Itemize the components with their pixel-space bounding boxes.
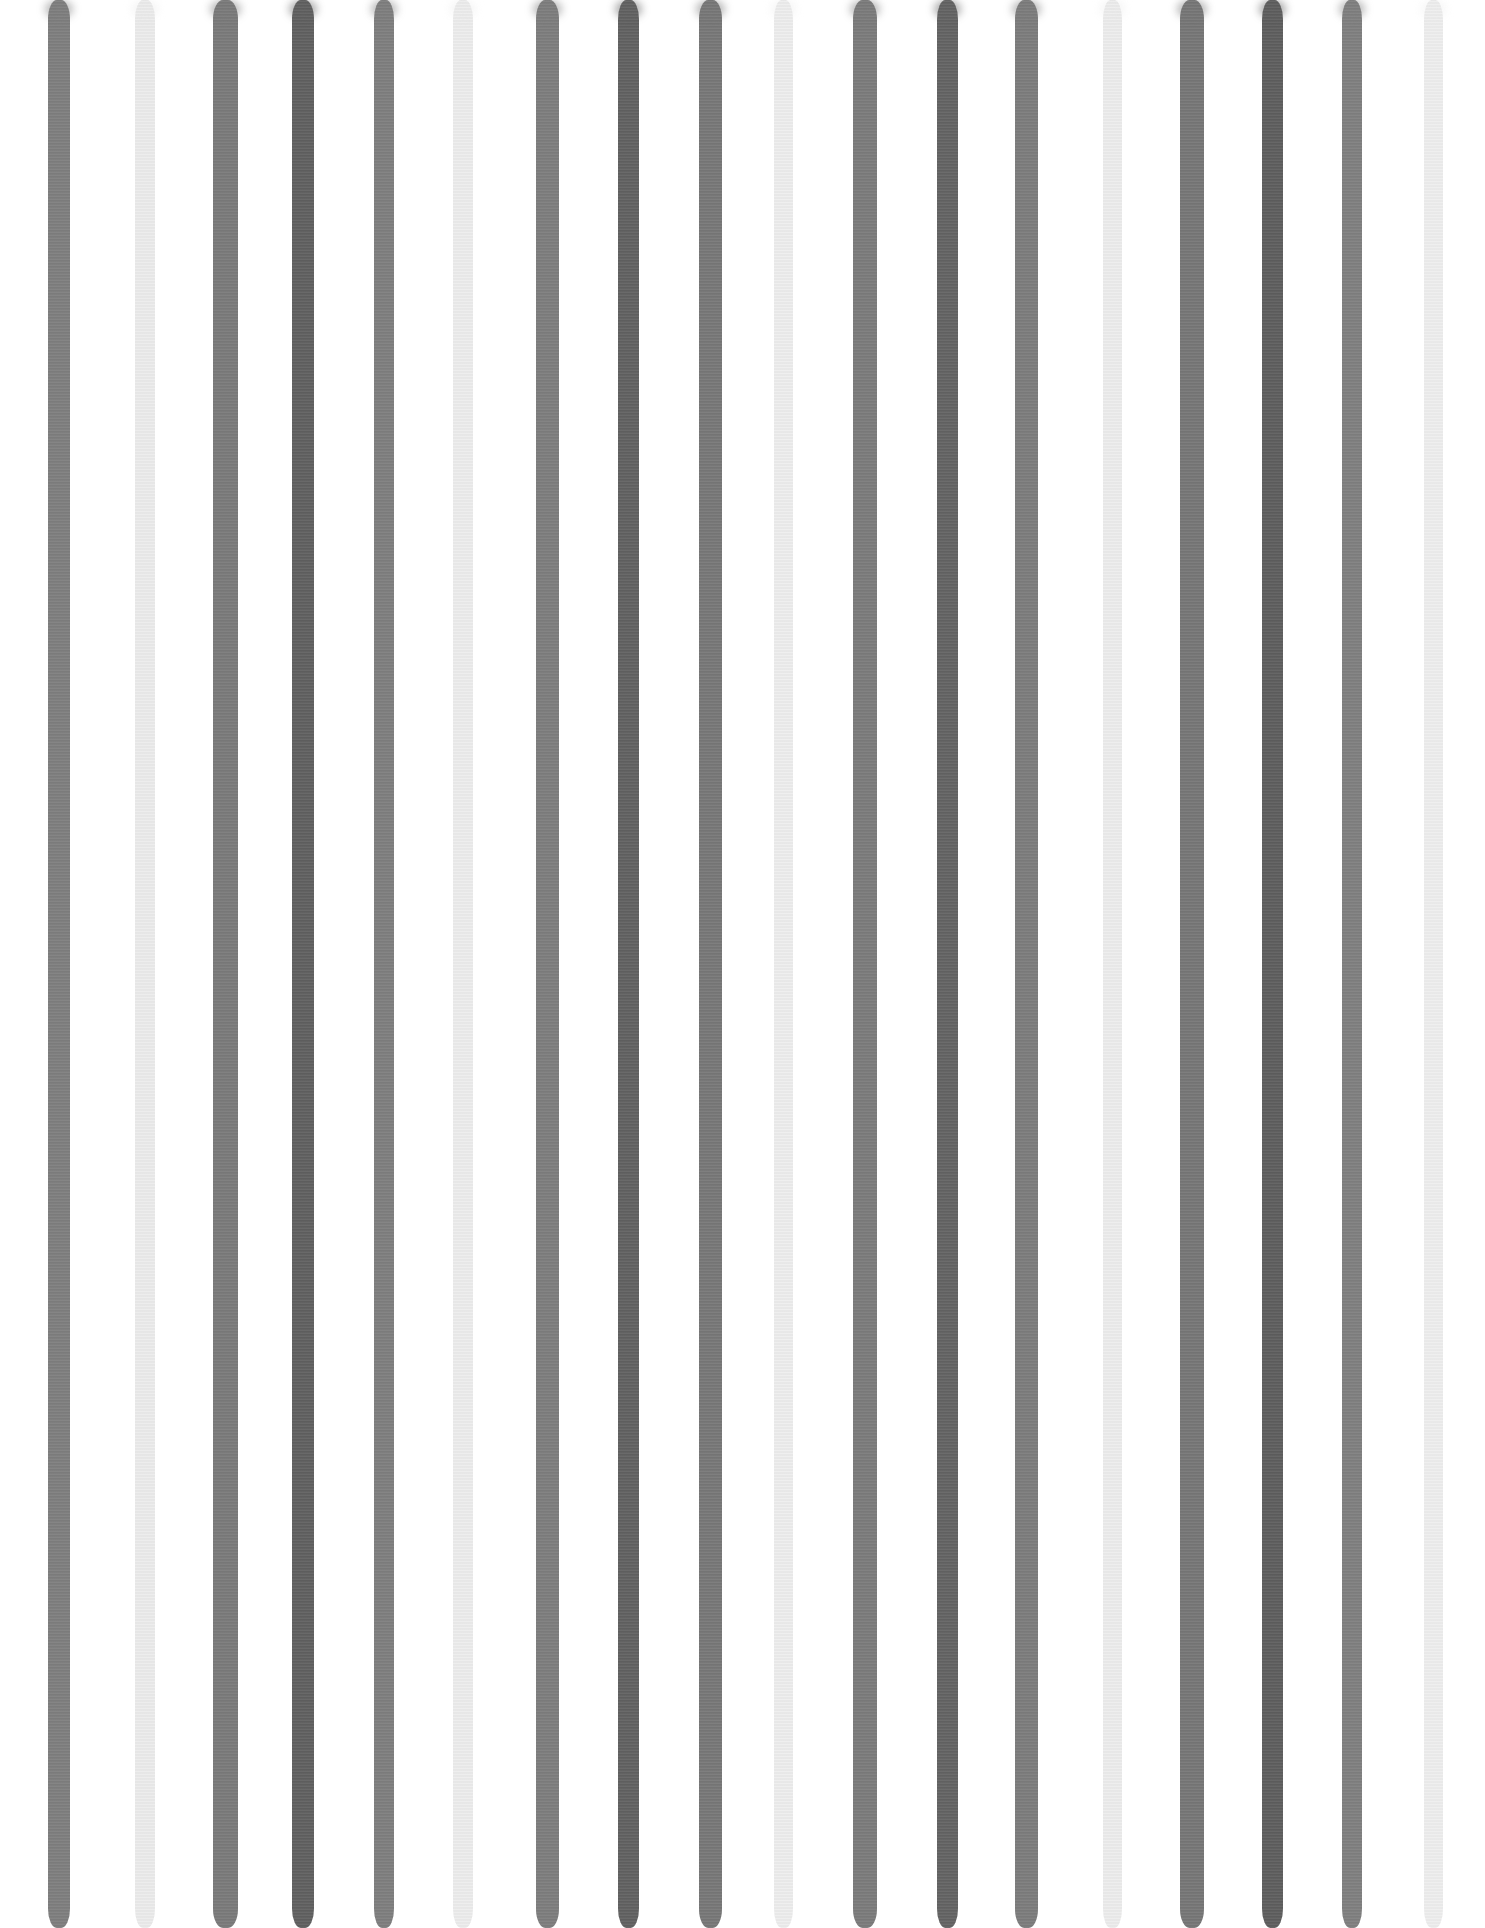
stripe-medium [48, 0, 70, 1928]
stripe-dark [618, 0, 639, 1928]
stripe-medium [1342, 0, 1362, 1928]
stripe-light [1424, 0, 1443, 1928]
stripe-light [774, 0, 793, 1928]
stripe-dark [292, 0, 314, 1928]
stripe-dark [1262, 0, 1283, 1928]
stripe-medium [1180, 0, 1204, 1928]
stripe-medium [213, 0, 238, 1928]
striped-watercolor-canvas [0, 0, 1485, 1928]
stripe-medium [536, 0, 559, 1928]
stripe-dark [937, 0, 958, 1928]
stripe-medium [853, 0, 877, 1928]
stripe-medium [699, 0, 722, 1928]
stripe-light [453, 0, 473, 1928]
stripe-light [1103, 0, 1122, 1928]
stripe-light [135, 0, 155, 1928]
stripe-medium [374, 0, 394, 1928]
stripe-medium [1015, 0, 1038, 1928]
